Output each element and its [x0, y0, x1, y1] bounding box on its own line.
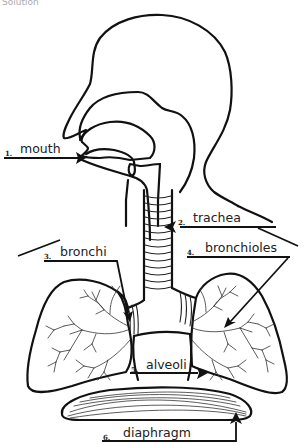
left-lung-bronchiole-tree	[46, 286, 130, 380]
caption-cutoff: Solution	[2, 0, 39, 7]
label-alveoli-text: alveoli	[146, 357, 187, 372]
label-bronchi-text: bronchi	[60, 244, 107, 259]
label-diaphragm-text: diaphragm	[123, 425, 191, 440]
label-bronchi-number: 3.	[44, 252, 51, 261]
label-trachea-text: trachea	[193, 210, 241, 225]
nasal-oral-cavity	[79, 92, 194, 226]
label-diaphragm: 6. diaphragm	[102, 412, 242, 442]
left-lung	[27, 280, 131, 392]
label-bronchi: 3. bronchi	[18, 240, 133, 322]
label-bronchioles: 4. bronchioles	[187, 240, 290, 328]
respiratory-system-diagram: Solution	[0, 0, 308, 444]
diaphragm-shape	[62, 387, 251, 420]
label-bronchioles-text: bronchioles	[205, 240, 277, 255]
label-mouth-number: 1.	[5, 149, 12, 158]
label-mouth: 1. mouth	[4, 141, 86, 164]
label-bronchioles-number: 4.	[187, 248, 194, 257]
label-trachea-number: 2.	[178, 218, 185, 227]
arrow-icon	[197, 367, 208, 379]
right-lung	[191, 274, 287, 393]
trachea-shape	[128, 190, 196, 380]
right-lung-bronchiole-tree	[192, 284, 274, 380]
label-mouth-text: mouth	[20, 141, 61, 156]
